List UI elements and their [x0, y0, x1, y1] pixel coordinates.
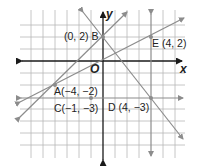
y-axis-label: y [106, 8, 113, 20]
point-E-label: E (4, 2) [152, 38, 186, 49]
lines [20, 12, 184, 156]
point-A-label: A(−4, −2) [54, 86, 98, 97]
point-B [101, 35, 105, 39]
point-B-label: (0, 2) B [64, 31, 98, 42]
line-OE [20, 18, 184, 102]
point-D [149, 96, 153, 100]
axes [22, 12, 182, 160]
point-D-label: D (4, −3) [108, 102, 149, 113]
origin-label: O [90, 63, 99, 75]
coordinate-plane [0, 0, 198, 167]
x-axis-label: x [180, 63, 187, 75]
point-C-label: C(−1, −3) [54, 103, 98, 114]
